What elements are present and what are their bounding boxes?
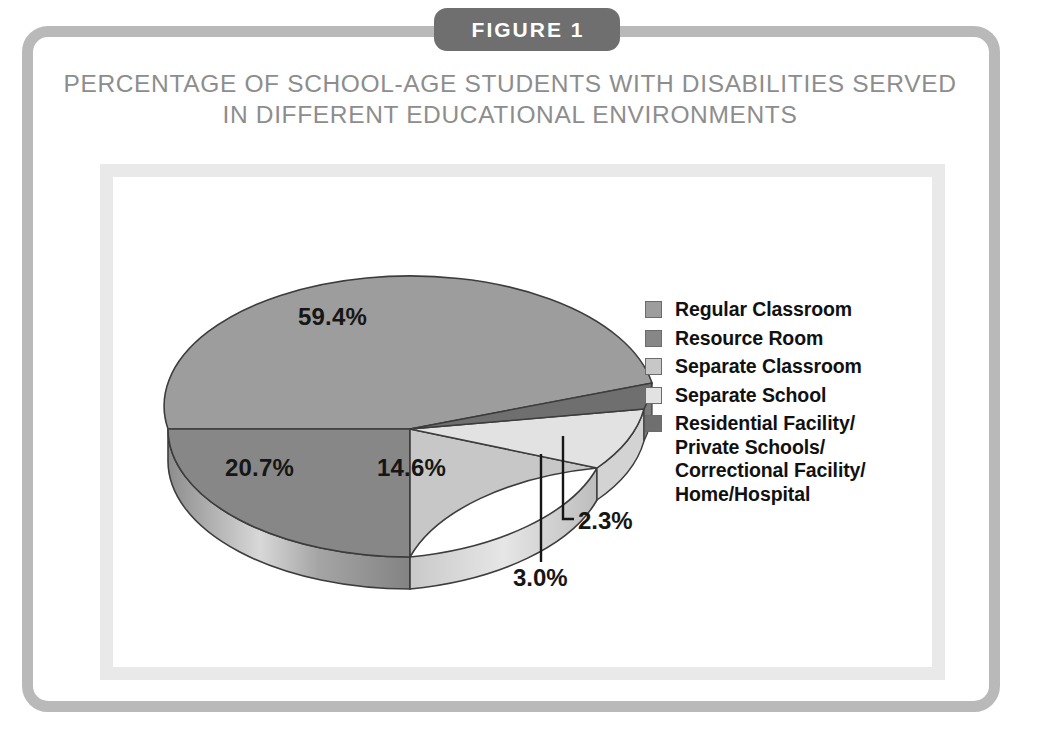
- pie-label-regular-classroom: 59.4%: [298, 303, 367, 331]
- legend-item-residential-facility: Residential Facility/ Private Schools/ C…: [645, 412, 925, 506]
- chart-title-line-1: PERCENTAGE OF SCHOOL-AGE STUDENTS WITH D…: [60, 68, 960, 99]
- pie-label-resource-room: 20.7%: [225, 454, 294, 482]
- legend-swatch-icon-residential-facility: [645, 415, 662, 432]
- legend-swatch-icon-resource-room: [645, 330, 662, 347]
- legend-label-separate-classroom: Separate Classroom: [675, 355, 862, 379]
- pie-callout-separate-school: 3.0%: [513, 564, 568, 592]
- legend-item-resource-room: Resource Room: [645, 327, 925, 351]
- pie-slice-resource-room: [168, 429, 410, 557]
- legend-item-separate-school: Separate School: [645, 384, 925, 408]
- legend-label-resource-room: Resource Room: [675, 327, 823, 351]
- figure-number-badge: FIGURE 1: [434, 8, 620, 51]
- legend-label-separate-school: Separate School: [675, 384, 826, 408]
- figure-number-label: FIGURE 1: [470, 19, 585, 40]
- legend-swatch-icon-separate-classroom: [645, 358, 662, 375]
- pie-chart-graphic: [160, 244, 680, 614]
- legend-swatch-icon-separate-school: [645, 387, 662, 404]
- chart-title-line-2: IN DIFFERENT EDUCATIONAL ENVIRONMENTS: [60, 99, 960, 130]
- chart-panel: 59.4% 20.7% 14.6% 2.3% 3.0% Regular Clas…: [100, 164, 945, 680]
- chart-legend: Regular Classroom Resource Room Separate…: [645, 298, 925, 511]
- legend-item-regular-classroom: Regular Classroom: [645, 298, 925, 322]
- pie-chart: 59.4% 20.7% 14.6% 2.3% 3.0% Regular Clas…: [100, 164, 945, 680]
- legend-label-residential-facility: Residential Facility/ Private Schools/ C…: [675, 412, 866, 506]
- chart-title: PERCENTAGE OF SCHOOL-AGE STUDENTS WITH D…: [60, 68, 960, 130]
- legend-swatch-icon-regular-classroom: [645, 301, 662, 318]
- pie-label-separate-classroom: 14.6%: [377, 454, 446, 482]
- pie-callout-residential-facility: 2.3%: [578, 507, 633, 535]
- legend-label-regular-classroom: Regular Classroom: [675, 298, 852, 322]
- figure-page: FIGURE 1 PERCENTAGE OF SCHOOL-AGE STUDEN…: [0, 0, 1053, 756]
- legend-item-separate-classroom: Separate Classroom: [645, 355, 925, 379]
